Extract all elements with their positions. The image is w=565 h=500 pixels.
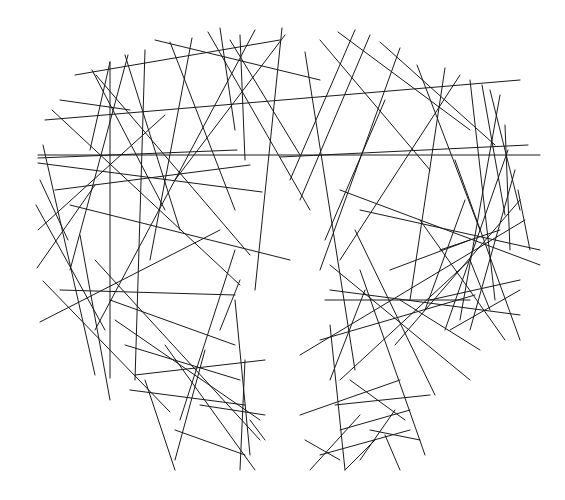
line-art-canvas bbox=[0, 0, 565, 500]
background bbox=[0, 0, 565, 500]
